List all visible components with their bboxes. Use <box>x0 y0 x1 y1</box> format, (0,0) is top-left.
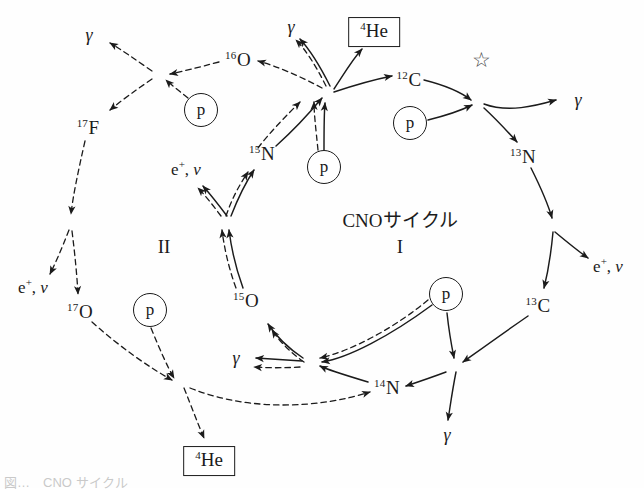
nuclide-label-o15: 15O <box>233 291 259 310</box>
arrow-hub-to-he-top <box>334 49 362 89</box>
proton-node-n15: p <box>307 150 341 184</box>
arrow-o16-junction-to-f17 <box>110 79 152 110</box>
nuclide-element-f17: F <box>89 117 100 138</box>
arrow-proton-to-n14-junction <box>322 305 432 362</box>
arrow-c12-junction-to-gamma <box>484 100 556 108</box>
nuclide-mass-c13: 13 <box>526 294 537 306</box>
nuclide-element-o15: O <box>245 290 259 311</box>
lepton-label-o15-decay: e+, ν <box>171 161 201 178</box>
lepton-label-n13-decay: e+, ν <box>593 258 623 275</box>
arrow-n15-dashed-to-hub <box>258 102 300 148</box>
arrow-c12-junction-to-n13 <box>484 108 517 142</box>
arrow-proton-to-hub <box>324 103 325 150</box>
arrow-hub-to-o16 <box>258 61 322 88</box>
proton-node-o17: p <box>133 293 167 327</box>
arrow-hub-to-c12 <box>334 76 392 92</box>
arrow-f17-decay-to-lepton <box>50 230 69 274</box>
arrow-o16-to-junction <box>170 62 219 74</box>
neutrino-symbol: ν <box>193 160 201 179</box>
arrow-n14-junction-dashed-to-gamma <box>254 367 300 368</box>
nuclide-mass-o16: 16 <box>225 48 236 60</box>
nuclide-mass-o17: 17 <box>67 300 78 312</box>
arrow-proton-dashed-to-n14-junction <box>320 300 428 358</box>
gamma-label-n14p: γ <box>232 349 239 367</box>
lepton-label-f17-decay: e+, ν <box>18 279 48 296</box>
nuclide-mass-f17: 17 <box>77 116 88 128</box>
nuclide-mass-n14: 14 <box>374 376 385 388</box>
arrow-c13-to-junction <box>463 316 528 362</box>
nuclide-mass-n15: 15 <box>249 142 260 154</box>
gamma-label-c13p: γ <box>443 426 450 444</box>
nuclide-label-c13: 13C <box>526 296 551 315</box>
arrow-n13-decay-to-lepton <box>555 232 588 258</box>
proton-node-o16: p <box>184 93 218 127</box>
cycle-one-numeral: I <box>342 234 457 260</box>
nuclide-element-o16: O <box>237 49 251 70</box>
arrow-n13-to-decay-node <box>531 168 552 218</box>
lepton-separator: , <box>607 257 611 276</box>
nuclide-mass-c12: 12 <box>397 68 408 80</box>
proton-label: p <box>197 100 206 120</box>
arrow-n13-decay-to-c13 <box>544 232 553 288</box>
helium-box-bottom: 4He <box>183 446 235 476</box>
nuclide-element-c12: C <box>409 69 422 90</box>
arrow-o15-decay-to-lepton <box>203 186 227 216</box>
arrow-n14-to-junction <box>320 366 368 382</box>
helium-element: He <box>201 449 223 470</box>
nuclide-label-c12: 12C <box>397 70 422 89</box>
arrow-o15-decay-to-n15 <box>231 170 254 216</box>
arrow-o16-junction-to-gamma <box>110 43 152 71</box>
arrow-proton-to-o16-junction <box>166 80 188 98</box>
electron-symbol: e <box>18 278 26 297</box>
arrow-proton-dashed-to-hub <box>314 102 318 150</box>
gamma-label-c12p: γ <box>574 91 581 109</box>
proton-node-c12: p <box>393 106 427 140</box>
arrow-f17-decay-to-o17 <box>72 231 78 294</box>
electron-symbol: e <box>171 160 179 179</box>
proton-label: p <box>146 300 155 320</box>
nuclide-mass-o15: 15 <box>233 289 244 301</box>
lepton-separator: , <box>32 278 36 297</box>
cycle-one-title-text: CNOサイクル <box>342 208 457 234</box>
arrow-c12-to-junction <box>424 80 471 100</box>
gamma-label-n15p: γ <box>287 18 294 36</box>
neutrino-symbol: ν <box>40 278 48 297</box>
nuclide-label-f17: 17F <box>77 118 100 137</box>
arrow-proton-to-o17-junction <box>151 328 174 378</box>
nuclide-label-o17: 17O <box>67 302 93 321</box>
arrow-o17-to-junction <box>92 322 172 380</box>
arrow-o17-junction-to-he-bottom <box>184 388 204 438</box>
cycle-one-title: CNOサイクル I <box>342 208 457 259</box>
nuclide-label-n13: 13N <box>510 147 536 166</box>
lepton-separator: , <box>185 160 189 179</box>
arrow-n14-junction-to-o15 <box>268 324 303 358</box>
nuclide-label-n14: 14N <box>374 378 400 397</box>
helium-element: He <box>366 20 388 41</box>
arrow-o17-junction-to-n14 <box>190 388 370 405</box>
nuclide-element-c13: C <box>538 295 551 316</box>
cycle-two-numeral: II <box>158 236 171 258</box>
nuclide-mass-n13: 13 <box>510 145 521 157</box>
arrow-c13-junction-to-n14 <box>406 372 446 386</box>
helium-box-top: 4He <box>348 17 400 47</box>
figure-caption: 図… CNO サイクル <box>4 472 128 491</box>
proton-node-c13: p <box>429 277 463 311</box>
nuclide-element-n13: N <box>522 146 536 167</box>
nuclide-element-n14: N <box>386 377 400 398</box>
arrow-hub-dashed-to-gamma <box>296 40 326 86</box>
proton-label: p <box>406 113 415 133</box>
arrow-n14-junction-to-gamma <box>256 358 302 361</box>
arrow-f17-to-decay-node <box>71 141 85 214</box>
arrow-c13-junction-to-gamma <box>448 372 456 420</box>
nuclide-element-n15: N <box>261 143 275 164</box>
gamma-label-o16p: γ <box>85 26 92 44</box>
nuclide-element-o17: O <box>79 301 93 322</box>
electron-symbol: e <box>593 257 601 276</box>
proton-label: p <box>442 284 451 304</box>
arrow-proton-to-c13-junction <box>447 313 454 358</box>
star-icon: ☆ <box>472 50 491 71</box>
arrow-proton-to-c12-junction <box>428 105 472 120</box>
arrow-o15-to-decay-node <box>229 230 243 288</box>
